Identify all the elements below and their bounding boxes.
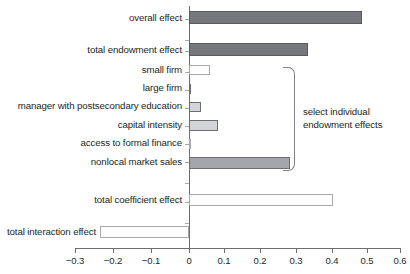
- x-axis-tick: [296, 248, 297, 253]
- x-axis-tick-label: 0: [169, 255, 209, 266]
- endowment-effects-bracket: [283, 67, 295, 171]
- category-label-total-endowment-effect: total endowment effect: [87, 44, 182, 55]
- x-axis-tick: [75, 248, 76, 253]
- x-axis-tick-label: −0.2: [93, 255, 133, 266]
- category-label-nonlocal-market-sales: nonlocal market sales: [91, 156, 182, 167]
- bar-small-firm: [189, 65, 210, 75]
- bar-nonlocal-market-sales: [189, 157, 290, 169]
- x-axis-tick-label: 0.6: [380, 255, 410, 266]
- x-axis-tick: [332, 248, 333, 253]
- x-axis-tick-label: 0.3: [276, 255, 316, 266]
- x-axis-tick-label: 0.4: [312, 255, 352, 266]
- bar-large-firm: [189, 84, 191, 94]
- y-axis-tick: [185, 183, 189, 184]
- bar-total-interaction-effect: [100, 226, 189, 238]
- x-axis-tick: [151, 248, 152, 253]
- y-axis-tick: [185, 223, 189, 224]
- x-axis-tick: [224, 248, 225, 253]
- category-label-total-interaction-effect: total interaction effect: [7, 226, 96, 237]
- bar-access-to-formal-finance: [189, 139, 191, 149]
- x-axis-tick-label: 0.1: [204, 255, 244, 266]
- x-axis-tick-label: 0.2: [240, 255, 280, 266]
- category-label-manager-with-postsecondary-education: manager with postsecondary education: [18, 100, 182, 111]
- category-label-capital-intensity: capital intensity: [118, 119, 182, 130]
- bar-manager-with-postsecondary-education: [189, 102, 201, 112]
- x-axis-tick-label: −0.3: [55, 255, 95, 266]
- x-axis-tick: [113, 248, 114, 253]
- bar-total-coefficient-effect: [189, 194, 333, 206]
- x-axis-tick: [189, 248, 190, 253]
- category-label-large-firm: large firm: [143, 82, 182, 93]
- plot-area: overall effect total endowment effect sm…: [0, 0, 410, 274]
- x-axis-tick-label: −0.1: [131, 255, 171, 266]
- x-axis-tick: [367, 248, 368, 253]
- x-axis-line: [75, 248, 401, 249]
- bar-capital-intensity: [189, 120, 218, 131]
- bar-overall-effect: [189, 11, 362, 24]
- bar-total-endowment-effect: [189, 43, 308, 56]
- category-label-overall-effect: overall effect: [129, 12, 182, 23]
- annotation-line-2: endowment effects: [303, 119, 382, 131]
- x-axis-tick: [400, 248, 401, 253]
- x-axis-tick: [260, 248, 261, 253]
- category-label-access-to-formal-finance: access to formal finance: [80, 137, 182, 148]
- bar-chart: overall effect total endowment effect sm…: [0, 0, 410, 274]
- y-axis-tick: [185, 40, 189, 41]
- annotation-line-1: select individual: [303, 106, 370, 118]
- category-label-small-firm: small firm: [142, 64, 182, 75]
- category-label-total-coefficient-effect: total coefficient effect: [94, 194, 182, 205]
